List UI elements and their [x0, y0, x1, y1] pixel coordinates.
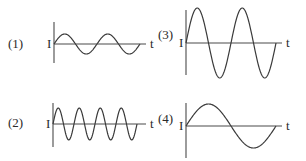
x-axis-label: t	[150, 116, 154, 131]
graph-4: (4) I t	[158, 103, 290, 158]
graph-label: (3)	[158, 27, 173, 42]
graph-label: (4)	[158, 111, 173, 126]
y-axis-label: I	[46, 116, 50, 131]
graph-label: (1)	[8, 36, 23, 51]
y-axis-label: I	[179, 35, 183, 50]
graph-2: (2) I t	[8, 103, 154, 147]
sine-wave-diagram: (1) I t (2) I t (3) I t (4) I t	[0, 0, 306, 161]
x-axis-label: t	[150, 36, 154, 51]
x-axis-label: t	[286, 35, 290, 50]
graph-3: (3) I t	[158, 8, 290, 78]
graph-1: (1) I t	[8, 22, 154, 63]
graph-label: (2)	[8, 115, 23, 130]
x-axis-label: t	[286, 118, 290, 133]
y-axis-label: I	[47, 36, 51, 51]
y-axis-label: I	[179, 118, 183, 133]
